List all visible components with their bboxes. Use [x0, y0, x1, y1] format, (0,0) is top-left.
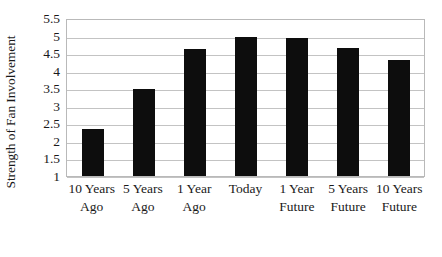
x-tick-label: 10 Years Ago	[66, 180, 117, 254]
bar	[235, 37, 257, 176]
bar-slot	[322, 20, 373, 176]
x-tick-label: Today	[220, 180, 271, 254]
y-axis-tick-labels: 5.554.543.532.521.51	[24, 19, 60, 177]
y-tick-label: 5.5	[24, 12, 60, 26]
y-tick-label: 3	[24, 100, 60, 114]
gridline	[67, 177, 424, 178]
x-axis-tick-labels: 10 Years Ago5 Years Ago1 Year AgoToday1 …	[66, 180, 425, 254]
bar-series	[67, 20, 424, 176]
bar-slot	[271, 20, 322, 176]
bar-slot	[373, 20, 424, 176]
bar	[82, 129, 104, 176]
x-tick-label: 1 Year Ago	[169, 180, 220, 254]
bar-slot	[169, 20, 220, 176]
y-axis-title: Strength of Fan Involvement	[2, 12, 20, 212]
bar-slot	[220, 20, 271, 176]
y-tick-label: 1	[24, 170, 60, 184]
y-tick-label: 3.5	[24, 82, 60, 96]
plot-area	[66, 19, 425, 177]
y-tick-label: 2	[24, 135, 60, 149]
y-tick-label: 4.5	[24, 47, 60, 61]
bar	[337, 48, 359, 176]
x-tick-label: 10 Years Future	[374, 180, 425, 254]
x-tick-label: 5 Years Future	[322, 180, 373, 254]
y-tick-label: 5	[24, 30, 60, 44]
bar	[388, 60, 410, 176]
x-tick-label: 1 Year Future	[271, 180, 322, 254]
bar-slot	[67, 20, 118, 176]
bar	[286, 38, 308, 176]
bar-slot	[118, 20, 169, 176]
y-tick-label: 4	[24, 65, 60, 79]
y-tick-label: 2.5	[24, 118, 60, 132]
x-tick-label: 5 Years Ago	[117, 180, 168, 254]
bar	[133, 89, 155, 176]
y-tick-label: 1.5	[24, 153, 60, 167]
bar-chart-figure: Strength of Fan Involvement 5.554.543.53…	[0, 0, 442, 257]
bar	[184, 49, 206, 176]
